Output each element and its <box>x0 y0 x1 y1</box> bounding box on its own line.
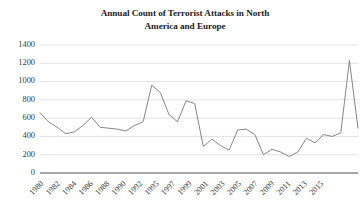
x-axis-tick-label: 1982 <box>44 179 62 197</box>
x-axis-tick-label: 2011 <box>275 179 293 197</box>
y-axis-tick-label: 1200 <box>18 58 35 67</box>
y-axis-tick-labels: 0200400600800100012001400 <box>18 40 35 177</box>
y-axis-tick-label: 1000 <box>18 76 35 85</box>
x-axis-tick-label: 1988 <box>93 179 111 197</box>
chart-figure: Annual Count of Terrorist Attacks in Nor… <box>0 0 364 214</box>
y-axis-tick-label: 600 <box>22 113 35 122</box>
gridlines-group <box>40 45 358 155</box>
x-axis-tick-label: 2003 <box>209 179 227 197</box>
x-axis-tick-label: 2005 <box>225 179 243 197</box>
x-axis-tick-label: 1999 <box>176 179 194 197</box>
x-axis-tick-label: 2013 <box>291 179 309 197</box>
y-axis-tick-label: 200 <box>22 150 35 159</box>
x-axis-tick-label: 2007 <box>242 179 260 197</box>
y-axis-tick-label: 1400 <box>18 40 35 49</box>
x-axis-tick-label: 2001 <box>192 179 210 197</box>
x-axis-tick-label: 2009 <box>258 179 276 197</box>
x-axis-tick-label: 2015 <box>307 179 325 197</box>
x-axis-tick-label: 1990 <box>110 179 128 197</box>
x-axis-tick-label: 1980 <box>27 179 45 197</box>
y-axis-tick-label: 400 <box>22 131 35 140</box>
y-axis-tick-label: 800 <box>22 95 35 104</box>
y-axis-tick-label: 0 <box>31 168 35 177</box>
x-axis-tick-label: 1984 <box>60 179 78 197</box>
x-axis-tick-label: 1992 <box>126 179 144 197</box>
line-chart-plot: 0200400600800100012001400 19801982198419… <box>0 0 364 214</box>
x-axis-tick-labels: 1980198219841986198819901992199519971999… <box>27 179 325 197</box>
x-axis-tick-label: 1986 <box>77 179 95 197</box>
x-axis-tick-label: 1995 <box>143 179 161 197</box>
data-series-line <box>40 61 358 157</box>
x-axis-tick-label: 1997 <box>159 179 177 197</box>
